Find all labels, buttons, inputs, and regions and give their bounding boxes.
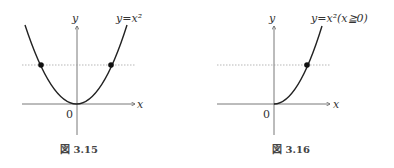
y-axis-label: y [71,12,79,25]
y-axis-label: y [268,12,276,25]
equation-label: y=x²(x≧0) [310,12,368,25]
figures-canvas: y x 0 y=x² 図 3.15 y x 0 y=x²(x≧0) 図 3.16 [0,0,394,168]
figure-3-15: y x 0 y=x² 図 3.15 [22,12,144,155]
x-axis-label: x [333,98,340,111]
x-axis-label: x [137,98,144,111]
point-left [38,62,44,68]
origin-label: 0 [263,108,270,121]
origin-label: 0 [66,108,73,121]
point-right [108,62,114,68]
point [304,62,310,68]
caption: 図 3.16 [272,144,310,155]
equation-label: y=x² [115,12,142,25]
figure-3-16: y x 0 y=x²(x≧0) 図 3.16 [217,12,368,155]
caption: 図 3.15 [60,144,98,155]
